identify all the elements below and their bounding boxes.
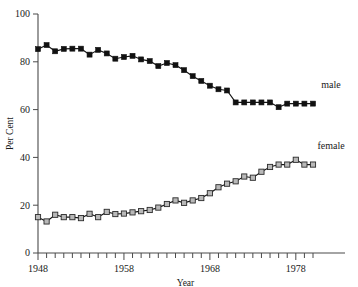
data-point-male	[164, 61, 169, 66]
data-point-male	[190, 74, 195, 79]
data-point-male	[302, 101, 307, 106]
chart-container: 020406080100 1948195819681978 malefemale…	[0, 0, 358, 287]
data-point-female	[87, 211, 92, 216]
data-point-female	[199, 195, 204, 200]
data-point-male	[87, 52, 92, 57]
y-tick-label: 60	[20, 104, 30, 115]
series-label-female: female	[317, 140, 345, 151]
data-point-female	[190, 198, 195, 203]
data-point-female	[250, 175, 255, 180]
data-point-female	[53, 212, 58, 217]
series-line-male	[38, 45, 313, 107]
data-point-female	[78, 216, 83, 221]
y-axis-title: Per Cent	[5, 117, 15, 150]
data-point-male	[216, 87, 221, 92]
data-point-female	[181, 200, 186, 205]
data-point-female	[96, 215, 101, 220]
data-point-male	[78, 46, 83, 51]
data-point-male	[61, 46, 66, 51]
data-point-female	[233, 179, 238, 184]
data-point-female	[44, 219, 49, 224]
data-point-male	[285, 101, 290, 106]
y-tick-label: 40	[20, 152, 30, 163]
data-point-female	[216, 185, 221, 190]
line-chart: 020406080100 1948195819681978 malefemale…	[0, 0, 358, 287]
data-point-male	[139, 57, 144, 62]
data-point-male	[207, 83, 212, 88]
data-point-female	[139, 209, 144, 214]
data-point-male	[182, 68, 187, 73]
data-point-male	[70, 46, 75, 51]
data-point-female	[285, 162, 290, 167]
x-axis-title: Year	[177, 278, 195, 287]
y-tick-label: 20	[20, 200, 30, 211]
data-point-female	[173, 198, 178, 203]
data-point-male	[225, 88, 230, 93]
data-point-male	[113, 56, 118, 61]
data-point-female	[224, 181, 229, 186]
y-tick-label: 0	[25, 247, 30, 258]
data-point-male	[104, 51, 109, 56]
data-point-female	[276, 162, 281, 167]
x-tick-label: 1968	[200, 263, 220, 274]
data-point-male	[130, 53, 135, 58]
data-point-male	[250, 100, 255, 105]
y-axis: 020406080100	[15, 8, 38, 258]
x-axis: 1948195819681978	[28, 253, 345, 274]
data-point-male	[259, 100, 264, 105]
x-tick-label: 1948	[28, 263, 48, 274]
data-point-male	[44, 43, 49, 48]
data-point-male	[242, 100, 247, 105]
data-point-male	[173, 63, 178, 68]
data-point-male	[121, 55, 126, 60]
data-point-female	[121, 211, 126, 216]
data-point-male	[311, 101, 316, 106]
data-point-male	[36, 47, 41, 52]
y-tick-label: 100	[15, 8, 30, 19]
data-point-female	[302, 162, 307, 167]
data-point-female	[70, 215, 75, 220]
data-point-female	[164, 201, 169, 206]
data-point-male	[233, 100, 238, 105]
y-tick-label: 80	[20, 56, 30, 67]
data-point-female	[113, 211, 118, 216]
series-label-male: male	[321, 79, 341, 90]
data-point-male	[96, 47, 101, 52]
data-point-female	[259, 169, 264, 174]
data-point-female	[104, 209, 109, 214]
data-point-female	[267, 164, 272, 169]
data-point-female	[310, 162, 315, 167]
data-point-female	[242, 174, 247, 179]
data-point-female	[293, 157, 298, 162]
data-point-male	[147, 59, 152, 64]
x-tick-label: 1958	[114, 263, 134, 274]
data-point-male	[156, 64, 161, 69]
x-tick-label: 1978	[286, 263, 306, 274]
data-point-male	[199, 78, 204, 83]
data-point-female	[35, 215, 40, 220]
data-point-female	[130, 210, 135, 215]
data-point-male	[53, 49, 58, 54]
data-series-group: malefemale	[35, 43, 345, 224]
data-point-female	[147, 207, 152, 212]
data-point-female	[207, 191, 212, 196]
data-point-male	[268, 100, 273, 105]
data-point-female	[156, 205, 161, 210]
data-point-male	[276, 105, 281, 110]
data-point-male	[293, 101, 298, 106]
data-point-female	[61, 215, 66, 220]
